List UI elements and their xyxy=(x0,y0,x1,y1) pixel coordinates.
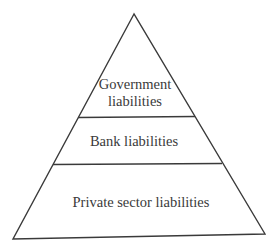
liability-pyramid-diagram: Government liabilities Bank liabilities … xyxy=(0,0,277,251)
divider-bottom xyxy=(53,164,222,165)
level-top-label-line1: Government xyxy=(99,76,171,92)
level-top-label-line2: liabilities xyxy=(108,93,162,109)
level-middle-label: Bank liabilities xyxy=(90,133,179,149)
divider-top xyxy=(78,117,195,118)
level-bottom-label: Private sector liabilities xyxy=(73,194,210,210)
